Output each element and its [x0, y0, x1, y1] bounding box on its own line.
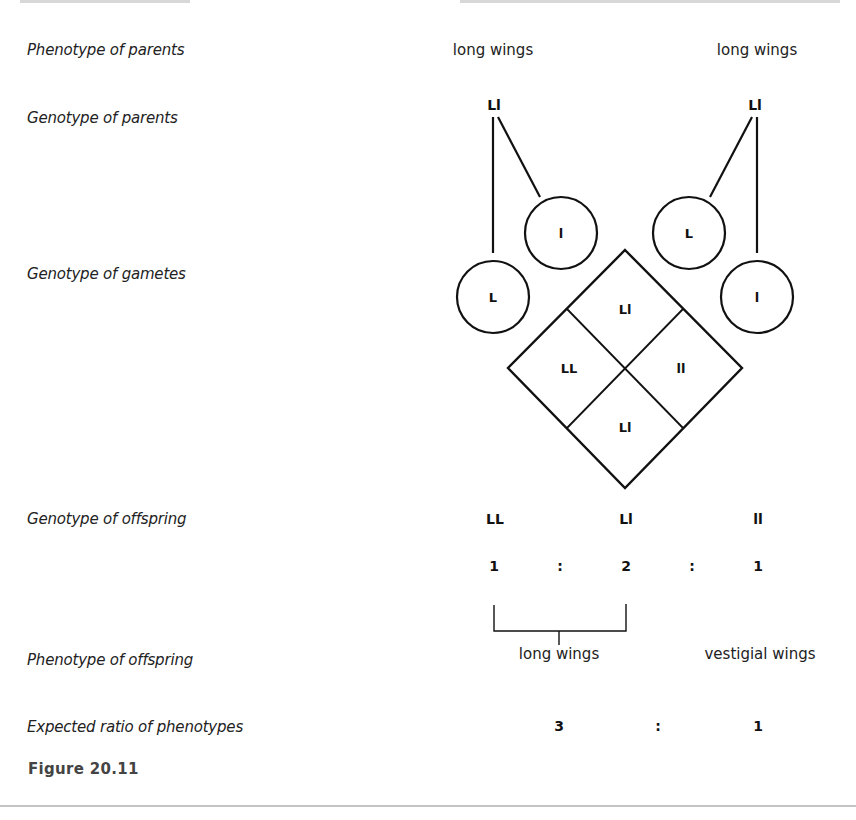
genotype-ratio-value: 1: [489, 558, 499, 574]
genotype-ratio-value: 1: [753, 558, 763, 574]
ratio-separator: :: [689, 558, 695, 574]
connector-line: [498, 117, 540, 197]
offspring-genotype: Ll: [619, 511, 633, 527]
punnett-cell-bottom: Ll: [619, 420, 632, 435]
gamete-label: L: [489, 290, 497, 305]
offspring-genotype: ll: [753, 511, 763, 527]
punnett-cell-left: LL: [561, 361, 578, 376]
connector-line: [710, 117, 752, 197]
gamete-label: L: [685, 226, 693, 241]
offspring-phenotype: vestigial wings: [704, 645, 815, 663]
gamete-label: l: [559, 226, 563, 241]
punnett-cell-top: Ll: [619, 302, 632, 317]
gamete-label: l: [755, 290, 759, 305]
genotype-ratio-value: 2: [621, 558, 631, 574]
genetic-cross-diagram: L l L l Ll LL ll Ll: [0, 0, 856, 820]
figure-caption: Figure 20.11: [28, 760, 139, 778]
phenotype-ratio-value: 3: [554, 718, 564, 734]
punnett-cell-right: ll: [677, 361, 686, 376]
ratio-separator: :: [655, 718, 661, 734]
phenotype-ratio-value: 1: [753, 718, 763, 734]
offspring-phenotype: long wings: [519, 645, 599, 663]
ratio-separator: :: [557, 558, 563, 574]
offspring-genotype: LL: [486, 511, 504, 527]
phenotype-bracket: [494, 604, 626, 631]
divider-rule: [0, 805, 856, 807]
